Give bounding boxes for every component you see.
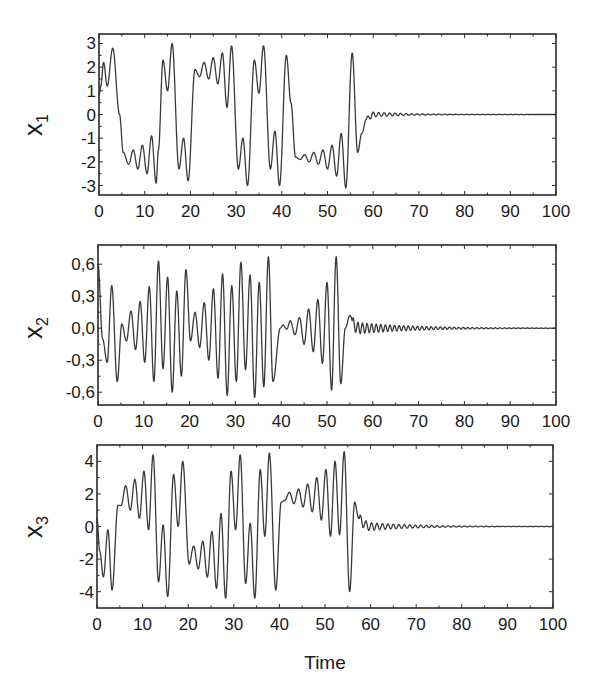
- x-tick-label: 30: [226, 412, 245, 431]
- panel-x1: x1 01020304050607080901003210-1-2-3: [18, 34, 570, 221]
- y-tick-label: 0,3: [71, 287, 95, 306]
- x-tick-label: 40: [272, 202, 291, 221]
- panel-x3: x3 0102030405060708090100420-2-4: [18, 445, 567, 634]
- figure: x1 01020304050607080901003210-1-2-3 x2 0…: [0, 0, 600, 699]
- x-tick-label: 60: [361, 615, 380, 634]
- y-tick-label: -2: [81, 153, 96, 172]
- y-tick-label: 0,0: [71, 319, 95, 338]
- x-tick-label: 0: [92, 615, 101, 634]
- y-tick-label: -0,6: [66, 383, 95, 402]
- y-tick-label: -4: [79, 583, 94, 602]
- y-tick-label: 2: [85, 485, 94, 504]
- x-tick-label: 100: [542, 412, 570, 431]
- y-tick-label: -0,3: [66, 351, 95, 370]
- x-tick-label: 70: [407, 615, 426, 634]
- y-tick-label: 2: [87, 58, 96, 77]
- y-tick-label: -2: [79, 550, 94, 569]
- x-tick-label: 80: [452, 615, 471, 634]
- x-tick-label: 10: [134, 412, 153, 431]
- x-tick-label: 60: [364, 202, 383, 221]
- x-tick-label: 100: [542, 202, 570, 221]
- y-tick-label: -1: [81, 129, 96, 148]
- x-axis-label: Time: [304, 652, 346, 673]
- y-tick-label: 1: [87, 82, 96, 101]
- x-tick-label: 80: [455, 412, 474, 431]
- x-tick-label: 50: [316, 615, 335, 634]
- y-tick-label: 0: [85, 518, 94, 537]
- x-tick-label: 20: [181, 202, 200, 221]
- x-tick-label: 90: [498, 615, 517, 634]
- series-line-x3: [97, 452, 553, 599]
- panel-x2: x2 01020304050607080901000,60,30,0-0,3-0…: [18, 245, 570, 431]
- x-tick-label: 40: [272, 412, 291, 431]
- x-tick-label: 90: [501, 202, 520, 221]
- x-tick-label: 70: [409, 202, 428, 221]
- x-tick-label: 50: [318, 412, 337, 431]
- y-tick-label: 4: [85, 452, 94, 471]
- x-tick-label: 40: [270, 615, 289, 634]
- x-tick-label: 50: [318, 202, 337, 221]
- x-tick-label: 80: [455, 202, 474, 221]
- y-axis-label-x1: x1: [18, 114, 51, 136]
- plot-frame: [98, 245, 556, 405]
- y-axis-label-x3: x3: [18, 516, 51, 538]
- x-tick-label: 30: [227, 202, 246, 221]
- x-tick-label: 70: [409, 412, 428, 431]
- x-tick-label: 30: [224, 615, 243, 634]
- x-tick-label: 100: [539, 615, 567, 634]
- figure-canvas: x1 01020304050607080901003210-1-2-3 x2 0…: [0, 0, 600, 699]
- x-tick-label: 20: [180, 412, 199, 431]
- series-line-x1: [99, 43, 556, 187]
- y-tick-label: 3: [87, 34, 96, 53]
- x-tick-label: 0: [94, 202, 103, 221]
- x-tick-label: 10: [135, 202, 154, 221]
- series-line-x2: [98, 257, 556, 398]
- x-tick-label: 20: [179, 615, 198, 634]
- y-axis-label-x2: x2: [18, 317, 51, 339]
- y-tick-label: 0: [87, 106, 96, 125]
- y-tick-label: -3: [81, 177, 96, 196]
- x-tick-label: 60: [363, 412, 382, 431]
- y-tick-label: 0,6: [71, 255, 95, 274]
- x-tick-label: 90: [501, 412, 520, 431]
- x-tick-label: 10: [133, 615, 152, 634]
- x-tick-label: 0: [93, 412, 102, 431]
